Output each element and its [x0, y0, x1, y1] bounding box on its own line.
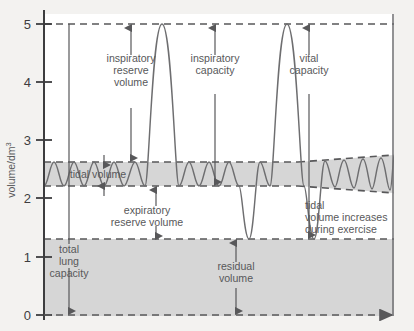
annotation-label-residual-volume-line1: residual [217, 260, 254, 272]
y-tick-label-4: 4 [24, 75, 31, 90]
annotation-label-expiratory-reserve-volume-line2: reserve volume [111, 216, 184, 228]
lung-volume-chart: 5 4 3 2 1 0 volume/dm3 total lung capaci… [0, 0, 414, 331]
y-tick-label-2: 2 [24, 191, 31, 206]
annotation-label-inspiratory-capacity-line2: capacity [196, 64, 236, 76]
annotation-label-inspiratory-reserve-volume-line1: inspiratory [107, 52, 157, 64]
annotation-label-total-lung-capacity-line2: lung [59, 255, 79, 267]
y-tick-label-5: 5 [24, 17, 31, 32]
annotation-label-inspiratory-reserve-volume-line3: volume [114, 76, 148, 88]
annotation-label-total-lung-capacity-line1: total [59, 243, 79, 255]
annotation-label-tidal-volume: tidal volume [70, 168, 127, 180]
y-tick-label-0: 0 [24, 308, 31, 323]
annotation-label-vital-capacity-line1: vital [300, 52, 319, 64]
annotation-label-exercise-line3: during exercise [305, 223, 377, 235]
annotation-label-inspiratory-capacity-line1: inspiratory [191, 52, 241, 64]
annotation-label-vital-capacity-line2: capacity [290, 64, 330, 76]
annotation-label-exercise-line1: tidal [305, 199, 324, 211]
y-axis-title: volume/dm3 [4, 142, 17, 198]
y-tick-label-1: 1 [24, 250, 31, 265]
annotation-label-inspiratory-reserve-volume-line2: reserve [113, 64, 148, 76]
y-axis-title-text: volume/dm [5, 146, 17, 198]
annotation-label-total-lung-capacity-line3: capacity [50, 267, 90, 279]
figure-canvas: 5 4 3 2 1 0 volume/dm3 total lung capaci… [0, 0, 414, 331]
annotation-label-exercise-line2: volume increases [305, 211, 387, 223]
y-tick-label-3: 3 [24, 133, 31, 148]
y-axis-title-sup: 3 [4, 142, 13, 146]
annotation-label-expiratory-reserve-volume-line1: expiratory [124, 204, 171, 216]
svg-text:volume/dm3: volume/dm3 [4, 142, 17, 198]
annotation-label-residual-volume-line2: volume [219, 272, 253, 284]
